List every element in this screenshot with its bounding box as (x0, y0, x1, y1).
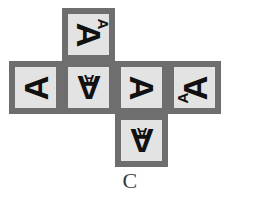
cube-face-middle-center-left: A A (62, 61, 115, 114)
cube-face-top: A A (62, 8, 115, 61)
face-middle-3-glyphs: A (121, 67, 162, 108)
letter-a-small: A (136, 125, 147, 140)
letter-a-small: A (95, 18, 110, 29)
figure-caption: C (0, 168, 260, 194)
cube-face-bottom: A A (115, 114, 168, 167)
face-middle-4-glyphs: A A (174, 67, 215, 108)
figure-canvas: A A A A A A A A (0, 0, 260, 201)
cube-face-middle-left: A (9, 61, 62, 114)
face-middle-1-glyphs: A (15, 67, 56, 108)
cube-net-diagram: A A A A A A A A (0, 0, 260, 175)
letter-a-large: A (19, 75, 53, 100)
letter-a-large: A (125, 75, 159, 100)
cube-face-middle-right: A A (168, 61, 221, 114)
face-bottom-glyphs: A A (121, 120, 162, 161)
letter-a-small: A (174, 92, 189, 103)
cube-face-middle-center-right: A (115, 61, 168, 114)
face-top-glyphs: A A (68, 14, 109, 55)
letter-a-small: A (83, 72, 94, 87)
face-middle-2-glyphs: A A (68, 67, 109, 108)
